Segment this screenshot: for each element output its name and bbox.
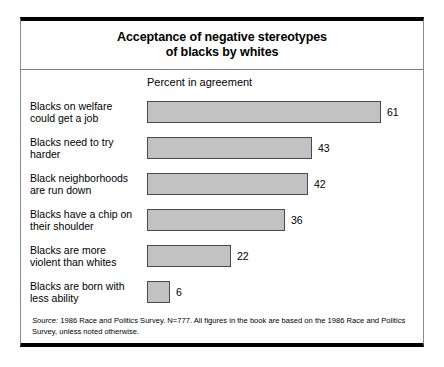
bar-value-label: 43 (318, 142, 330, 154)
bar-rows: Blacks on welfarecould get a job61Blacks… (21, 94, 423, 310)
bar-category-label: Blacks on welfarecould get a job (30, 94, 142, 130)
bar-row: Blacks are moreviolent than whites22 (21, 238, 423, 274)
bar-track: 36 (147, 202, 419, 238)
bar-category-label-line: their shoulder (30, 220, 142, 233)
bar-category-label-line: violent than whites (30, 256, 142, 269)
bar-row: Blacks on welfarecould get a job61 (21, 94, 423, 130)
page-title-line-2: of blacks by whites (31, 45, 413, 60)
chart-title-block: Acceptance of negative stereotypes of bl… (21, 21, 423, 70)
bar-category-label-line: Black neighborhoods (30, 172, 142, 185)
source-note-text: Source: 1986 Race and Politics Survey. N… (32, 316, 409, 337)
source-note: Source: 1986 Race and Politics Survey. N… (21, 308, 423, 343)
bar-value-label: 6 (176, 286, 182, 298)
chart-plot-area: Percent in agreement Blacks on welfareco… (21, 70, 423, 308)
bar-category-label: Blacks are moreviolent than whites (30, 238, 142, 274)
bar-category-label-line: Blacks on welfare (30, 100, 142, 113)
bar-category-label: Blacks need to tryharder (30, 130, 142, 166)
bar-value-label: 22 (237, 250, 249, 262)
chart-figure: Acceptance of negative stereotypes of bl… (20, 17, 424, 347)
bar-track: 43 (147, 130, 419, 166)
x-axis-caption: Percent in agreement (147, 76, 252, 88)
bar-value-label: 36 (291, 214, 303, 226)
bar (147, 209, 285, 231)
bar-track: 42 (147, 166, 419, 202)
bar-row: Blacks have a chip ontheir shoulder36 (21, 202, 423, 238)
bar (147, 245, 231, 267)
bar-track: 61 (147, 94, 419, 130)
bar-track: 6 (147, 274, 419, 310)
bar-value-label: 61 (387, 106, 399, 118)
source-label: Source: (32, 316, 58, 325)
bar-category-label: Blacks have a chip ontheir shoulder (30, 202, 142, 238)
page-title-line-1: Acceptance of negative stereotypes (31, 30, 413, 45)
bar (147, 173, 308, 195)
bar (147, 101, 381, 123)
bar (147, 137, 312, 159)
bar-track: 22 (147, 238, 419, 274)
source-body: 1986 Race and Politics Survey. N=777. Al… (32, 316, 405, 336)
bar-category-label-line: harder (30, 148, 142, 161)
bar-category-label: Blacks are born withless ability (30, 274, 142, 310)
bar-category-label-line: Blacks are born with (30, 280, 142, 293)
bar-value-label: 42 (314, 178, 326, 190)
bar-category-label-line: are run down (30, 184, 142, 197)
bar-category-label-line: Blacks need to try (30, 136, 142, 149)
bar-row: Blacks are born withless ability6 (21, 274, 423, 310)
bar-category-label: Black neighborhoodsare run down (30, 166, 142, 202)
bar-row: Black neighborhoodsare run down42 (21, 166, 423, 202)
bar-category-label-line: could get a job (30, 112, 142, 125)
bar (147, 281, 170, 303)
bar-category-label-line: Blacks have a chip on (30, 208, 142, 221)
bar-row: Blacks need to tryharder43 (21, 130, 423, 166)
bar-category-label-line: less ability (30, 292, 142, 305)
bar-category-label-line: Blacks are more (30, 244, 142, 257)
